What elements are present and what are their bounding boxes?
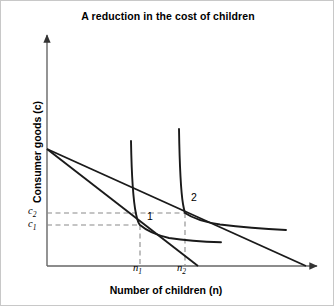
x-tick-label-n1: n1 <box>133 262 142 276</box>
y-tick-label-c1: c1 <box>28 218 36 232</box>
x-axis-label: Number of children (n) <box>41 284 291 296</box>
equilibrium-point-1-label: 1 <box>147 210 153 222</box>
chart-canvas <box>1 1 334 306</box>
x-tick-label-n2: n2 <box>177 262 186 276</box>
y-tick-label-c2: c2 <box>28 205 36 219</box>
equilibrium-point-2-label: 2 <box>191 191 197 203</box>
indifference-curve-1 <box>131 141 221 242</box>
economics-diagram: A reduction in the cost of children Cons… <box>0 0 334 306</box>
